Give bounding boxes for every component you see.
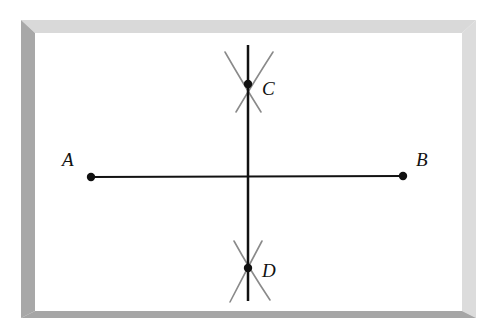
point-b [399,172,407,180]
label-b: B [416,149,428,170]
frame-left [21,20,35,318]
frame-right [462,20,476,318]
frame-top [21,20,476,33]
construction-diagram: A B C D [0,0,488,331]
frame-bottom [21,311,476,318]
label-d: D [261,260,276,281]
point-d [244,264,252,272]
label-a: A [60,149,74,170]
label-c: C [262,78,275,99]
point-c [244,80,252,88]
point-a [87,173,95,181]
